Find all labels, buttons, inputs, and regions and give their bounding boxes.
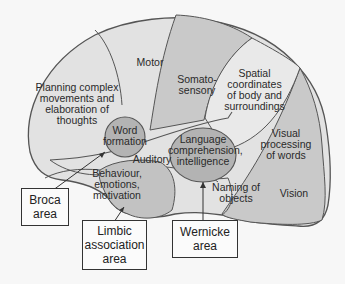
label-visual-words: Visual processing of words (256, 128, 316, 161)
label-vision: Vision (276, 188, 312, 199)
label-language: Language comprehension, intelligence (168, 134, 238, 167)
callout-broca: Broca area (21, 188, 69, 226)
label-motor: Motor (130, 57, 170, 68)
callout-limbic: Limbic association area (82, 220, 147, 270)
callout-wernicke: Wernicke area (172, 220, 238, 258)
label-behaviour: Behaviour, emotions, motivation (85, 168, 149, 201)
label-somatosensory: Somato- sensory (172, 74, 222, 96)
label-word-formation: Word formation (100, 125, 150, 147)
label-spatial: Spatial coordinates of body and surround… (217, 68, 292, 112)
label-planning: Planning complex movements and elaborati… (32, 82, 122, 126)
label-naming: Naming of objects (210, 182, 262, 204)
label-auditory: Auditory (132, 154, 172, 165)
